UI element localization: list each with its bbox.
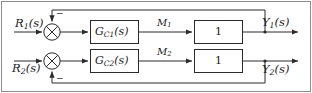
output-label-y2: Y2(s) <box>262 64 289 77</box>
plant-label-1: 1 <box>215 26 222 37</box>
block-diagram-figure: R1(s) R2(s) − − GC1(s) GC2(s) M1 M2 1 1 … <box>0 0 312 93</box>
diagram-canvas <box>0 0 312 93</box>
feedback-sign-1: − <box>56 9 64 18</box>
input-label-r2: R2(s) <box>12 63 41 76</box>
summing-junction-2 <box>44 53 60 69</box>
plant-label-2: 1 <box>215 55 222 66</box>
signal-label-m1: M1 <box>157 18 172 29</box>
output-label-y1: Y1(s) <box>262 17 289 30</box>
signal-label-m2: M2 <box>157 47 172 58</box>
controller-label-gc1: GC1(s) <box>95 26 129 38</box>
feedback-sign-2: − <box>56 74 64 83</box>
summing-junction-1 <box>44 24 60 40</box>
input-label-r1: R1(s) <box>15 18 44 31</box>
controller-label-gc2: GC2(s) <box>95 55 129 67</box>
